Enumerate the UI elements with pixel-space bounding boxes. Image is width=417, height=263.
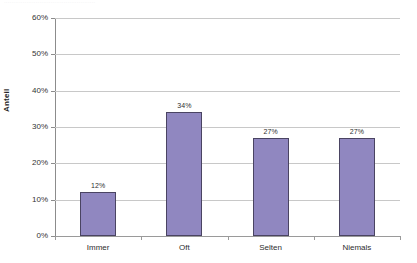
- bar-value-label: 12%: [78, 182, 118, 189]
- bar-selten: [253, 138, 289, 236]
- x-axis-tick: [141, 236, 142, 240]
- gridline: [55, 91, 400, 92]
- y-axis-tick: [51, 163, 55, 164]
- plot-area: 12%34%27%27%: [55, 18, 400, 236]
- x-axis-tick: [55, 236, 56, 240]
- y-axis-tick-label: 50%: [2, 50, 48, 58]
- y-axis-tick: [51, 18, 55, 19]
- y-axis-tick-label: 30%: [2, 123, 48, 131]
- x-axis-label-niemals: Niemals: [327, 243, 387, 252]
- x-axis-label-oft: Oft: [154, 243, 214, 252]
- bar-niemals: [339, 138, 375, 236]
- bar-chart: ········································…: [0, 0, 417, 263]
- x-axis-label-selten: Selten: [241, 243, 301, 252]
- bar-value-label: 34%: [164, 102, 204, 109]
- x-axis-tick: [314, 236, 315, 240]
- y-axis-tick-label: 20%: [2, 159, 48, 167]
- bar-immer: [80, 192, 116, 236]
- y-axis-tick-label: 40%: [2, 87, 48, 95]
- y-axis-tick-labels: 0%10%20%30%40%50%60%: [0, 0, 48, 263]
- bar-oft: [166, 112, 202, 236]
- y-axis-tick-label: 10%: [2, 196, 48, 204]
- y-axis-tick: [51, 127, 55, 128]
- bar-value-label: 27%: [251, 128, 291, 135]
- bar-value-label: 27%: [337, 128, 377, 135]
- y-axis-tick-label: 60%: [2, 14, 48, 22]
- y-axis-tick: [51, 91, 55, 92]
- y-axis-tick-label: 0%: [2, 232, 48, 240]
- x-axis-label-immer: Immer: [68, 243, 128, 252]
- x-axis-tick: [400, 236, 401, 240]
- x-axis-tick: [228, 236, 229, 240]
- y-axis-tick: [51, 200, 55, 201]
- y-axis-tick: [51, 54, 55, 55]
- gridline: [55, 54, 400, 55]
- gridline: [55, 18, 400, 19]
